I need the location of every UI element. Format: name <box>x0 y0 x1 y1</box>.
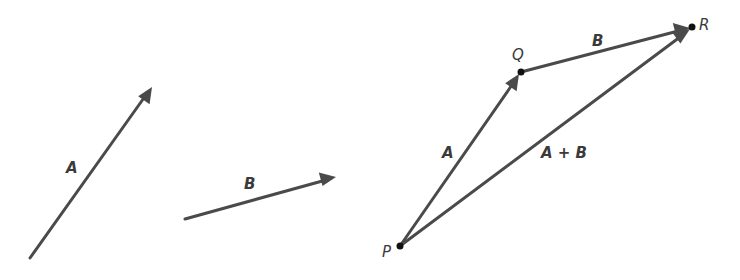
label-point-p: P <box>382 245 391 260</box>
label-point-r: R <box>699 18 709 33</box>
label-vector-a-left: A <box>66 161 78 176</box>
label-vector-b-right: B <box>592 34 603 49</box>
point-q <box>518 69 525 76</box>
label-vector-a-right: A <box>442 146 454 161</box>
label-resultant: A + B <box>541 146 587 161</box>
vector-a-left <box>30 95 146 258</box>
label-vector-b-left: B <box>244 177 255 192</box>
point-r <box>689 24 696 31</box>
arrowhead-b-left <box>319 172 336 186</box>
vector-a-right <box>400 82 514 246</box>
vector-addition-figure: A B P Q R A B A + B <box>0 0 740 280</box>
vector-b-left <box>185 180 326 219</box>
vector-diagram <box>0 0 740 280</box>
arrowhead-a-right <box>505 74 519 91</box>
label-point-q: Q <box>512 48 524 63</box>
point-p <box>397 243 404 250</box>
